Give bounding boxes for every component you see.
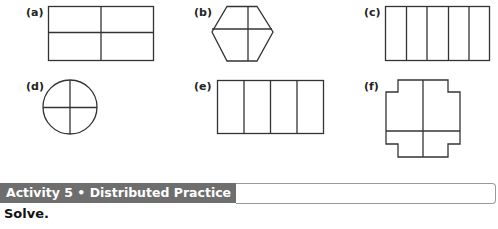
figure-e-rectangle <box>218 81 324 134</box>
figure-a-rectangle <box>49 7 154 61</box>
figures-canvas <box>0 0 498 180</box>
activity-title: Activity 5 • Distributed Practice <box>6 185 231 200</box>
figure-d-circle <box>43 80 97 134</box>
figure-f-stepped-shape <box>386 80 460 157</box>
activity-banner: Activity 5 • Distributed Practice <box>0 183 236 203</box>
figure-c-rectangle <box>386 7 490 61</box>
activity-banner-box <box>236 183 496 204</box>
instruction-text: Solve. <box>4 206 49 221</box>
figure-b-hexagon <box>212 7 273 62</box>
